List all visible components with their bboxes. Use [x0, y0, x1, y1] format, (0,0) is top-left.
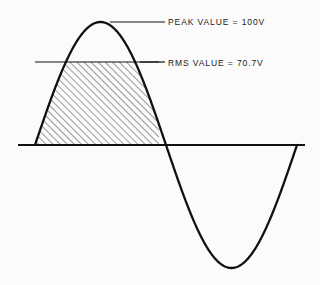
rms-value-label: RMS VALUE = 70.7V — [168, 59, 264, 68]
sine-wave-figure: PEAK VALUE = 100V RMS VALUE = 70.7V — [0, 0, 320, 285]
waveform-diagram — [0, 0, 320, 285]
peak-value-label: PEAK VALUE = 100V — [168, 18, 265, 27]
